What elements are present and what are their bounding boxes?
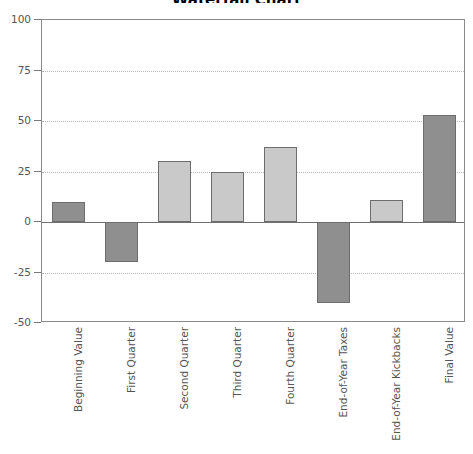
- gridline: [42, 71, 464, 72]
- bar: [317, 222, 350, 303]
- x-tick-label: Third Quarter: [232, 327, 243, 398]
- y-tick-label: -50: [14, 317, 31, 327]
- y-tick-label: 0: [24, 216, 31, 226]
- plot-area: [41, 19, 465, 322]
- x-tick-label: Fourth Quarter: [285, 327, 296, 405]
- y-tick-label: 75: [18, 65, 31, 75]
- y-tick-mark: [34, 322, 41, 323]
- y-axis: 1007550250-25-50: [0, 0, 41, 454]
- bar: [423, 115, 456, 222]
- y-tick-mark: [34, 19, 41, 20]
- y-tick-mark: [34, 171, 41, 172]
- x-axis: Beginning ValueFirst QuarterSecond Quart…: [41, 323, 465, 454]
- x-tick-label: Second Quarter: [179, 327, 190, 410]
- y-tick-mark: [34, 272, 41, 273]
- gridline: [42, 121, 464, 122]
- bar: [211, 172, 244, 223]
- chart-title: Waterfall Chart: [0, 0, 473, 3]
- y-tick-label: -25: [14, 267, 31, 277]
- gridline: [42, 172, 464, 173]
- y-tick-label: 50: [18, 115, 31, 125]
- bar: [264, 147, 297, 222]
- bar: [105, 222, 138, 262]
- bar-chart: Waterfall Chart 1007550250-25-50 Beginni…: [0, 0, 473, 454]
- x-tick-label: Beginning Value: [73, 327, 84, 412]
- y-tick-mark: [34, 221, 41, 222]
- bar: [52, 202, 85, 222]
- bar: [158, 161, 191, 222]
- y-tick-mark: [34, 120, 41, 121]
- x-tick-label: End-of-Year Kickbacks: [391, 327, 402, 441]
- x-tick-label: Final Value: [444, 327, 455, 383]
- bar: [370, 200, 403, 222]
- y-tick-mark: [34, 70, 41, 71]
- x-tick-label: End-of-Year Taxes: [338, 327, 349, 418]
- y-tick-label: 25: [18, 166, 31, 176]
- x-tick-label: First Quarter: [126, 327, 137, 393]
- gridline: [42, 273, 464, 274]
- y-tick-label: 100: [11, 14, 31, 24]
